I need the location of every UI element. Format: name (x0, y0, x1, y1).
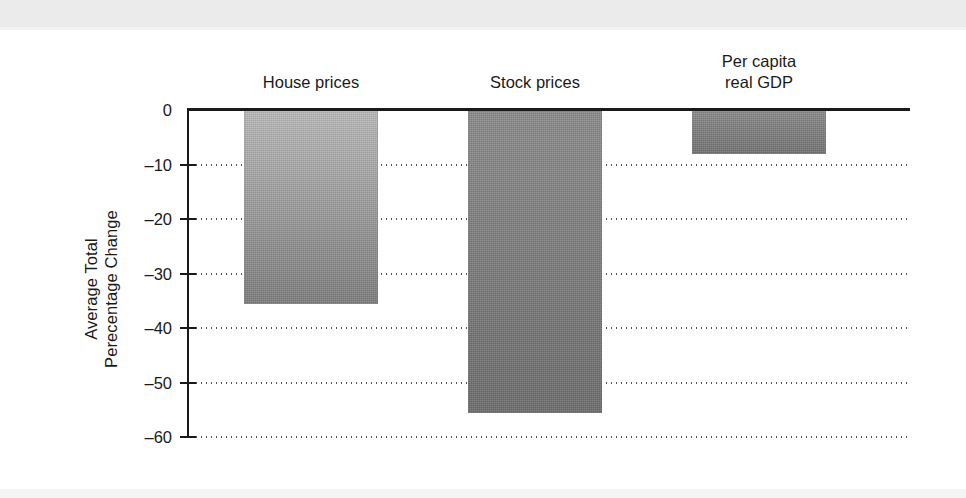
y-axis-title-line-1: Average Total (81, 139, 101, 439)
bar-label-per-capita-real-gdp: Per capita real GDP (679, 51, 839, 93)
bar-stock-prices[interactable] (468, 110, 602, 413)
y-tick-minus-60 (180, 436, 196, 438)
plot-area (187, 110, 910, 437)
bar-per-capita-real-gdp[interactable] (692, 110, 826, 154)
bar-label-per-capita-real-gdp-line-2: real GDP (679, 72, 839, 93)
bar-label-stock-prices: Stock prices (455, 72, 615, 93)
bar-label-house-prices: House prices (231, 72, 391, 93)
y-tick-label-minus-10: –10 (110, 155, 172, 174)
y-tick-minus-30 (180, 273, 196, 275)
y-tick-label-minus-50: –50 (110, 373, 172, 392)
y-tick-minus-50 (180, 382, 196, 384)
y-tick-minus-10 (180, 164, 196, 166)
y-tick-minus-40 (180, 327, 196, 329)
y-tick-minus-20 (180, 218, 196, 220)
y-tick-label-minus-40: –40 (110, 319, 172, 338)
bar-chart-figure: Average Total Perecentage Change 0 –10 –… (0, 0, 966, 498)
y-tick-label-0: 0 (110, 101, 172, 120)
bar-house-prices[interactable] (244, 110, 378, 304)
y-tick-label-minus-60: –60 (110, 428, 172, 447)
bar-label-per-capita-real-gdp-line-1: Per capita (679, 51, 839, 72)
y-axis-tick-labels: 0 –10 –20 –30 –40 –50 –60 (110, 0, 172, 498)
y-tick-label-minus-20: –20 (110, 210, 172, 229)
gridline-minus-60 (189, 436, 910, 438)
bar-label-house-prices-line-1: House prices (263, 73, 359, 91)
y-tick-label-minus-30: –30 (110, 264, 172, 283)
zero-baseline (187, 108, 910, 111)
bar-label-stock-prices-line-1: Stock prices (490, 73, 580, 91)
